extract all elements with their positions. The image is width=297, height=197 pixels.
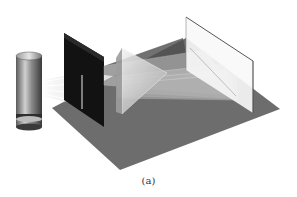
optics-diagram: (a) — [0, 0, 297, 197]
light-source-icon — [16, 52, 42, 131]
figure-caption: (a) — [0, 175, 297, 186]
